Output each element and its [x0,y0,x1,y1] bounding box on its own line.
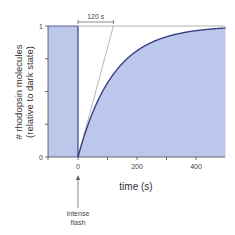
x-axis: 0 200 400 [48,157,225,170]
recovery-fill [78,28,226,157]
flash-label-line2: flash [71,219,86,226]
y-axis: 1 0 [39,23,48,161]
x-axis-title: time (s) [119,181,152,192]
rhodopsin-recovery-chart: 1 0 0 200 400 time (s) # rhodopsin molec… [0,0,235,235]
y-tick-label-1: 1 [39,23,43,30]
bracket-label: 120 s [87,13,105,20]
x-tick-label-400: 400 [190,163,202,170]
arrow-up-icon [76,175,80,180]
y-axis-title-sub: (relative to dark state) [24,46,35,138]
y-tick-label-0: 0 [39,154,43,161]
flash-label-line1: intense [67,210,90,217]
x-tick-label-200: 200 [131,163,143,170]
time-constant-bracket: 120 s [78,13,113,24]
x-tick-label-0: 0 [76,163,80,170]
y-axis-title: # rhodopsin molecules (relative to dark … [13,44,35,139]
y-axis-title-main: # rhodopsin molecules [13,44,24,139]
pre-flash-fill [48,26,78,157]
plot-area [48,26,226,157]
flash-annotation: intense flash [67,175,90,226]
